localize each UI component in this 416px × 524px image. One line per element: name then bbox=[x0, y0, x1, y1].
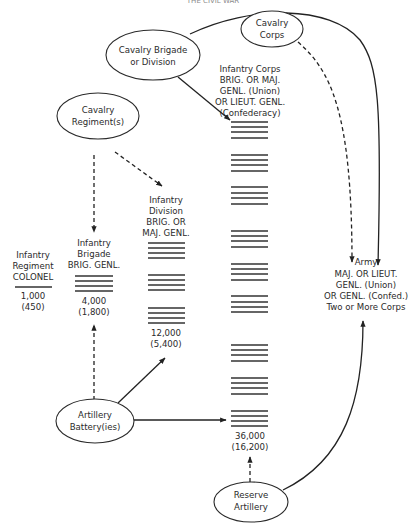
svg-text:Infantry: Infantry bbox=[77, 238, 111, 248]
corps-bars bbox=[231, 122, 268, 426]
svg-text:OR GENL. (Confed.): OR GENL. (Confed.) bbox=[324, 291, 408, 301]
svg-text:(Confederacy): (Confederacy) bbox=[219, 108, 280, 118]
arrow-cav-regiment-to-division bbox=[115, 152, 162, 186]
node-artillery-battery: Artillery Battery(ies) bbox=[56, 399, 134, 443]
unit-infantry-regiment: Infantry Regiment COLONEL 1,000 (450) bbox=[12, 250, 54, 312]
node-cavalry-corps: Cavalry Corps bbox=[241, 11, 303, 47]
svg-text:or Division: or Division bbox=[130, 57, 176, 67]
node-reserve-artillery: Reserve Artillery bbox=[214, 482, 288, 522]
unit-infantry-division: Infantry Division BRIG. OR MAJ. GENL. 12… bbox=[142, 195, 189, 349]
svg-text:Regiment(s): Regiment(s) bbox=[72, 117, 124, 127]
svg-text:Division: Division bbox=[149, 206, 183, 216]
svg-text:Army: Army bbox=[355, 257, 378, 267]
svg-text:BRIG. GENL.: BRIG. GENL. bbox=[68, 260, 121, 270]
svg-text:(16,200): (16,200) bbox=[232, 442, 269, 452]
svg-text:Cavalry: Cavalry bbox=[256, 18, 289, 28]
svg-text:(1,800): (1,800) bbox=[78, 307, 109, 317]
svg-text:MAJ. GENL.: MAJ. GENL. bbox=[142, 228, 189, 238]
svg-text:36,000: 36,000 bbox=[235, 431, 265, 441]
svg-text:COLONEL: COLONEL bbox=[13, 272, 54, 282]
svg-text:Artillery: Artillery bbox=[234, 502, 268, 512]
svg-text:OR LIEUT. GENL.: OR LIEUT. GENL. bbox=[215, 97, 285, 107]
unit-infantry-brigade: Infantry Brigade BRIG. GENL. 4,000 (1,80… bbox=[68, 238, 121, 317]
svg-text:Infantry: Infantry bbox=[149, 195, 183, 205]
svg-text:Two or More Corps: Two or More Corps bbox=[325, 302, 406, 312]
svg-text:MAJ. OR LIEUT.: MAJ. OR LIEUT. bbox=[335, 269, 398, 279]
node-cavalry-brigade: Cavalry Brigade or Division bbox=[106, 30, 200, 80]
svg-text:Infantry Corps: Infantry Corps bbox=[219, 64, 281, 74]
svg-text:BRIG. OR: BRIG. OR bbox=[146, 217, 185, 227]
unit-infantry-corps: Infantry Corps BRIG. OR MAJ. GENL. (Unio… bbox=[215, 64, 285, 452]
node-cavalry-regiment: Cavalry Regiment(s) bbox=[57, 93, 139, 139]
army-organization-diagram: THE CIVIL WAR Cavalry Corps Cavalry Brig… bbox=[0, 0, 416, 524]
svg-text:Regiment: Regiment bbox=[12, 261, 54, 271]
brigade-bars bbox=[75, 276, 113, 291]
svg-text:Cavalry Brigade: Cavalry Brigade bbox=[119, 45, 188, 55]
svg-text:1,000: 1,000 bbox=[21, 291, 46, 301]
svg-text:Battery(ies): Battery(ies) bbox=[70, 422, 121, 432]
svg-text:(5,400): (5,400) bbox=[150, 339, 181, 349]
svg-text:Brigade: Brigade bbox=[77, 249, 110, 259]
svg-text:BRIG. OR MAJ.: BRIG. OR MAJ. bbox=[220, 75, 281, 85]
unit-army: Army MAJ. OR LIEUT. GENL. (Union) OR GEN… bbox=[324, 257, 408, 312]
svg-text:(450): (450) bbox=[21, 302, 44, 312]
svg-text:Corps: Corps bbox=[260, 30, 285, 40]
svg-text:4,000: 4,000 bbox=[82, 296, 107, 306]
arrow-reserve-to-army bbox=[283, 321, 363, 490]
svg-text:GENL. (Union): GENL. (Union) bbox=[220, 86, 280, 96]
svg-text:Reserve: Reserve bbox=[234, 490, 269, 500]
svg-text:GENL. (Union): GENL. (Union) bbox=[336, 280, 396, 290]
svg-text:Cavalry: Cavalry bbox=[82, 105, 115, 115]
svg-text:Infantry: Infantry bbox=[16, 250, 50, 260]
division-bars bbox=[148, 243, 185, 323]
arrow-artillery-to-division bbox=[118, 358, 165, 403]
arrow-cav-corps-to-army bbox=[298, 42, 352, 262]
svg-text:Artillery: Artillery bbox=[78, 410, 112, 420]
svg-text:12,000: 12,000 bbox=[151, 328, 181, 338]
running-header: THE CIVIL WAR bbox=[186, 0, 239, 5]
